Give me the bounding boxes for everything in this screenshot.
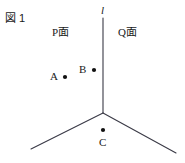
point-b-label: B bbox=[79, 64, 86, 75]
geometry-figure: 図 1 l P面 Q面 A B C bbox=[0, 0, 185, 163]
figure-caption: 図 1 bbox=[5, 13, 25, 24]
point-c-dot bbox=[101, 128, 105, 132]
line-l-label: l bbox=[101, 5, 104, 16]
plane-p-edge-left bbox=[31, 113, 103, 149]
plane-q-label: Q面 bbox=[118, 27, 137, 38]
point-b-dot bbox=[92, 68, 96, 72]
plane-q-edge-right bbox=[103, 113, 176, 153]
point-a-label: A bbox=[50, 71, 58, 82]
point-a-dot bbox=[63, 75, 67, 79]
point-c-label: C bbox=[99, 137, 106, 148]
plane-p-label: P面 bbox=[52, 27, 69, 38]
figure-canvas bbox=[0, 0, 185, 163]
